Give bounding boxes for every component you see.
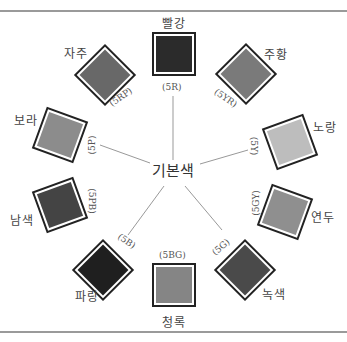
swatch-fill xyxy=(156,267,192,303)
hue-code-5gy: (5GY) xyxy=(251,190,261,216)
hue-name-5r: 빨강 xyxy=(162,14,186,31)
hue-name-5bg: 청록 xyxy=(162,313,186,330)
swatch-fill xyxy=(156,36,192,72)
hue-name-5g: 녹색 xyxy=(262,285,286,302)
hue-code-5p: (5P) xyxy=(87,136,97,155)
swatch-fill xyxy=(37,182,83,228)
center-label: 기본색 xyxy=(152,159,194,180)
hue-name-5gy: 연두 xyxy=(311,208,335,225)
hue-name-5yr: 주황 xyxy=(264,45,288,62)
swatch-fill xyxy=(267,119,313,165)
hue-code-5y: (5Y) xyxy=(249,137,259,156)
swatch-5r xyxy=(152,32,196,76)
hue-name-5y: 노랑 xyxy=(313,118,337,135)
hue-code-5pb: (5PB) xyxy=(87,188,97,213)
hue-name-5rp: 자주 xyxy=(64,44,88,61)
hue-name-5pb: 남색 xyxy=(10,211,34,228)
hue-name-5b: 파랑 xyxy=(75,287,99,304)
swatch-fill xyxy=(262,189,308,235)
hue-code-5r: (5R) xyxy=(162,82,182,92)
swatch-fill xyxy=(37,112,83,158)
hue-code-5bg: (5BG) xyxy=(159,250,186,260)
hue-name-5p: 보라 xyxy=(14,111,38,128)
swatch-5bg xyxy=(152,263,196,307)
